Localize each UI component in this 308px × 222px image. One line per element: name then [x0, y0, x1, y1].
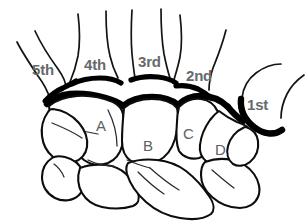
carpal-label-d: D: [215, 142, 226, 157]
bone-bottom-center-outline: [126, 160, 213, 219]
carpal-label-c: C: [183, 126, 194, 141]
metatarsal-4th-shaft-medial: [106, 11, 118, 78]
metatarsal-label-5th: 5th: [32, 62, 54, 77]
metatarsal-label-1st: 1st: [247, 97, 268, 112]
metatarsal-1st-shaft-lateral: [242, 64, 281, 98]
joint-line-3rd: [131, 77, 176, 83]
metatarsal-3rd-shaft-lateral: [131, 10, 135, 78]
bone-diagram: 5th 4th 3rd 2nd 1st A B C D: [0, 0, 308, 222]
metatarsal-4th-shaft-lateral: [70, 14, 80, 82]
metatarsal-label-2nd: 2nd: [186, 68, 212, 83]
joint-line-4th: [72, 78, 121, 84]
metatarsal-label-3rd: 3rd: [138, 54, 161, 69]
bone-b-outline: [122, 99, 178, 164]
carpal-label-a: A: [96, 118, 106, 133]
metatarsal-1st-shaft-medial: [281, 75, 304, 118]
metatarsal-2nd-shaft-lateral: [173, 15, 182, 83]
carpal-label-b: B: [143, 138, 153, 153]
metatarsal-3rd-shaft-medial: [161, 9, 170, 78]
metatarsal-label-4th: 4th: [84, 57, 106, 72]
